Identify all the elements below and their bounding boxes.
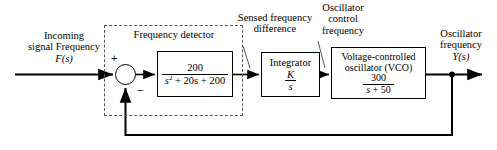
voltage-controlled-oscillator-block: Voltage-controlled oscillator (VCO) 300 … (331, 47, 426, 99)
input-signal-label: Incoming signal Frequency F(s) (14, 30, 114, 64)
frequency-detector-block: 200 s2 + 20s + 200 (157, 51, 233, 97)
integrator-block: Integrator K s (261, 52, 320, 97)
oscillator-control-frequency-label: Oscillator control frequency (303, 2, 383, 36)
block-diagram: Frequency detector Incoming signal Frequ… (0, 0, 497, 150)
frequency-detector-transfer-function: 200 s2 + 20s + 200 (162, 62, 228, 85)
leader-sensed-difference (243, 46, 250, 68)
summing-junction-minus-sign: − (137, 84, 143, 96)
vco-transfer-function: 300 s + 50 (363, 73, 394, 95)
vco-title-line1: Voltage-controlled (341, 51, 415, 62)
integrator-title: Integrator (270, 57, 311, 69)
integrator-transfer-function: K s (284, 69, 297, 92)
output-signal-label: Oscillator frequency Y(s) (425, 28, 497, 62)
summing-junction-plus-sign: + (111, 52, 117, 64)
frequency-detector-group-label: Frequency detector (112, 29, 236, 40)
summing-junction (115, 64, 136, 85)
